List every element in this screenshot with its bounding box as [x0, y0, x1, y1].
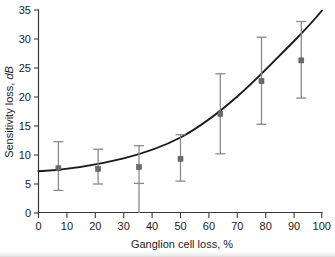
svg-text:Sensitivity loss, dB: Sensitivity loss, dB [3, 66, 15, 158]
x-tick-label: 60 [203, 220, 215, 232]
x-tick-label: 100 [313, 220, 331, 232]
y-tick-label: 25 [19, 62, 31, 74]
data-point-marker [218, 111, 223, 116]
y-tick-label: 10 [19, 149, 31, 161]
data-point-marker [299, 58, 304, 63]
y-tick-label: 20 [19, 91, 31, 103]
x-tick-label: 20 [89, 220, 101, 232]
chart-background [0, 0, 335, 257]
x-tick-label: 90 [288, 220, 300, 232]
x-axis-title: Ganglion cell loss, % [131, 238, 233, 250]
data-point-marker [96, 166, 101, 171]
data-point-marker [56, 166, 61, 171]
y-tick-label: 5 [25, 178, 31, 190]
y-axis-title: Sensitivity loss, dB [3, 66, 15, 158]
x-tick-label: 70 [231, 220, 243, 232]
sensitivity-loss-scatter-chart: 0 5 10 15 20 25 30 35 0 10 20 [0, 0, 335, 257]
data-point-marker [178, 156, 183, 161]
y-axis-title-plain: Sensitivity loss, [3, 80, 15, 158]
x-tick-label: 40 [146, 220, 158, 232]
data-point-marker [137, 165, 142, 170]
x-tick-label: 80 [260, 220, 272, 232]
y-axis-title-emphasis: dB [3, 66, 15, 79]
y-tick-label: 0 [25, 207, 31, 219]
y-tick-label: 35 [19, 4, 31, 16]
x-tick-label: 10 [61, 220, 73, 232]
y-tick-label: 15 [19, 120, 31, 132]
y-tick-label: 30 [19, 33, 31, 45]
figure-container: 0 5 10 15 20 25 30 35 0 10 20 [0, 0, 335, 257]
x-tick-label: 30 [118, 220, 130, 232]
data-point-marker [259, 79, 264, 84]
x-tick-label: 0 [35, 220, 41, 232]
x-tick-label: 50 [174, 220, 186, 232]
